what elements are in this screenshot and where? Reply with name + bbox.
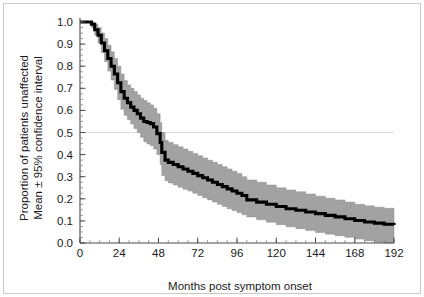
survival-chart: 024487296120144168192 0.00.10.20.30.40.5… xyxy=(0,0,424,297)
x-tick-label: 120 xyxy=(267,247,286,259)
x-tick-label: 0 xyxy=(77,247,83,259)
y-axis-title-line1: Proportion of patients unaffected xyxy=(18,55,30,221)
y-tick-label: 1.0 xyxy=(57,16,73,28)
x-tick-label: 192 xyxy=(384,247,403,259)
x-axis-tick-labels: 024487296120144168192 xyxy=(77,247,404,259)
y-tick-label: 0.4 xyxy=(57,149,74,161)
x-tick-label: 24 xyxy=(113,247,126,259)
y-tick-label: 0.3 xyxy=(57,171,73,183)
x-tick-label: 72 xyxy=(191,247,204,259)
figure-container: 024487296120144168192 0.00.10.20.30.40.5… xyxy=(0,0,424,297)
mean-survival-line xyxy=(80,22,394,225)
y-tick-label: 0.6 xyxy=(57,104,73,116)
x-axis-title: Months post symptom onset xyxy=(168,280,313,292)
y-tick-label: 0.9 xyxy=(57,38,73,50)
y-tick-label: 0.5 xyxy=(57,127,73,139)
y-axis-title-line2: Mean ± 95% confidence interval xyxy=(32,56,44,220)
x-tick-label: 168 xyxy=(345,247,364,259)
y-axis-tick-labels: 0.00.10.20.30.40.50.60.70.80.91.0 xyxy=(57,16,74,249)
x-tick-label: 96 xyxy=(231,247,244,259)
y-tick-label: 0.7 xyxy=(57,82,73,94)
y-tick-label: 0.0 xyxy=(57,237,73,249)
x-tick-label: 144 xyxy=(306,247,326,259)
y-tick-label: 0.8 xyxy=(57,60,73,72)
y-tick-label: 0.1 xyxy=(57,215,73,227)
y-tick-label: 0.2 xyxy=(57,193,73,205)
x-tick-label: 48 xyxy=(152,247,165,259)
